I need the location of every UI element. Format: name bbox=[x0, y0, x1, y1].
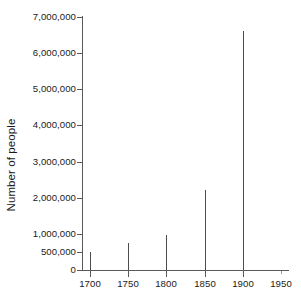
y-axis-tick-label: 500,000 bbox=[41, 247, 76, 257]
y-axis-tick-labels: 7,000,0006,000,0005,000,0004,000,0003,00… bbox=[0, 0, 76, 298]
y-axis-tick bbox=[77, 53, 82, 54]
x-axis-tick-label: 1950 bbox=[270, 279, 292, 289]
x-axis-tick-label: 1800 bbox=[155, 279, 177, 289]
y-axis-tick bbox=[77, 17, 82, 18]
y-axis-tick-label: 5,000,000 bbox=[33, 84, 76, 94]
x-axis-tick bbox=[243, 271, 244, 277]
population-bar-chart: Number of people 7,000,0006,000,0005,000… bbox=[0, 0, 301, 298]
x-axis-tick bbox=[128, 271, 129, 277]
y-axis-tick-label: 6,000,000 bbox=[33, 48, 76, 58]
plot-area bbox=[82, 17, 288, 270]
x-axis-tick-label: 1750 bbox=[117, 279, 139, 289]
x-axis-tick bbox=[166, 271, 167, 277]
y-axis-tick-label: 7,000,000 bbox=[33, 12, 76, 22]
x-axis-tick bbox=[90, 271, 91, 277]
y-axis-tick bbox=[77, 252, 82, 253]
y-axis-tick bbox=[77, 270, 82, 271]
x-axis-tick-label: 1900 bbox=[232, 279, 254, 289]
y-axis-tick-label: 1,000,000 bbox=[33, 229, 76, 239]
x-axis-tick-label: 1850 bbox=[194, 279, 216, 289]
y-axis-tick-label: 3,000,000 bbox=[33, 157, 76, 167]
y-axis-tick bbox=[77, 125, 82, 126]
y-axis-tick bbox=[77, 89, 82, 90]
x-axis-tick bbox=[205, 271, 206, 277]
x-axis-tick-label: 1700 bbox=[79, 279, 101, 289]
y-axis-tick bbox=[77, 162, 82, 163]
y-axis-tick-label: 0 bbox=[71, 265, 76, 275]
x-axis-tick bbox=[281, 271, 282, 274]
y-axis-tick bbox=[77, 198, 82, 199]
y-axis-tick-label: 2,000,000 bbox=[33, 193, 76, 203]
y-axis-tick-label: 4,000,000 bbox=[33, 120, 76, 130]
y-axis-tick bbox=[77, 234, 82, 235]
x-axis-line bbox=[82, 270, 289, 271]
